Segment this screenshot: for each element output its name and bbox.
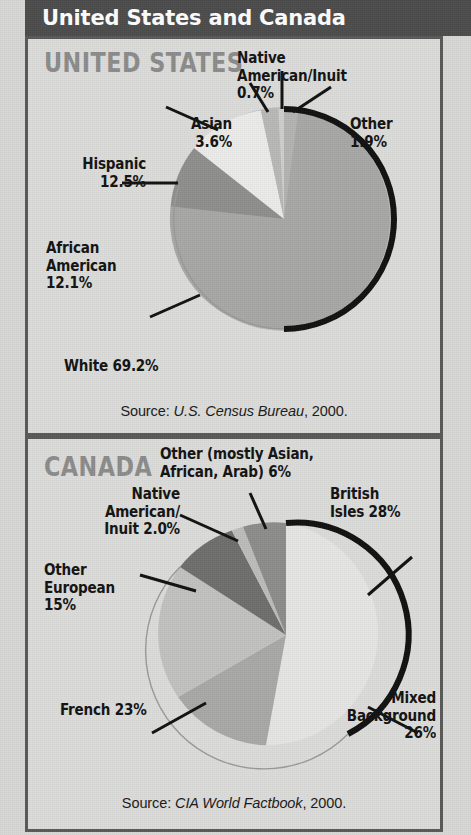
ca-label-british-isles: British Isles 28% [330, 485, 443, 520]
us-label-native-american: Native American/Inuit 0.7% [237, 49, 397, 102]
us-label-asian: Asian 3.6% [138, 115, 232, 150]
us-label-african-american: African American 12.1% [46, 239, 149, 292]
figure-header-bar: United States and Canada [25, 0, 471, 36]
us-source-name: U.S. Census Bureau [174, 403, 304, 419]
panel-canada: CANADA Other (mostly As [25, 436, 443, 832]
ca-label-other-european: Other European 15% [44, 561, 157, 614]
ca-label-native-american: Native American/ Inuit 2.0% [58, 485, 180, 538]
page-title: United States and Canada [42, 6, 346, 30]
panel-united-states: UNITED STATES [25, 36, 443, 436]
ca-label-mixed-background: Mixed Background 26% [295, 689, 436, 742]
figure-container: United States and Canada UNITED STATES [25, 0, 471, 835]
ca-source-name: CIA World Factbook [175, 795, 302, 811]
us-label-hispanic: Hispanic 12.5% [52, 155, 146, 190]
ca-country-title: CANADA [44, 451, 152, 482]
ca-label-french: French 23% [60, 701, 201, 719]
us-label-other: Other 1.9% [350, 115, 444, 150]
us-source-line: Source: U.S. Census Bureau, 2000. [28, 403, 440, 419]
us-source-suffix: , 2000. [304, 403, 348, 419]
ca-source-line: Source: CIA World Factbook, 2000. [28, 795, 440, 811]
us-source-prefix: Source: [120, 403, 173, 419]
ca-label-other: Other (mostly Asian, African, Arab) 6% [160, 445, 367, 480]
ca-source-prefix: Source: [122, 795, 175, 811]
us-label-white: White 69.2% [64, 357, 233, 375]
ca-source-suffix: , 2000. [302, 795, 346, 811]
us-country-title: UNITED STATES [44, 47, 243, 78]
